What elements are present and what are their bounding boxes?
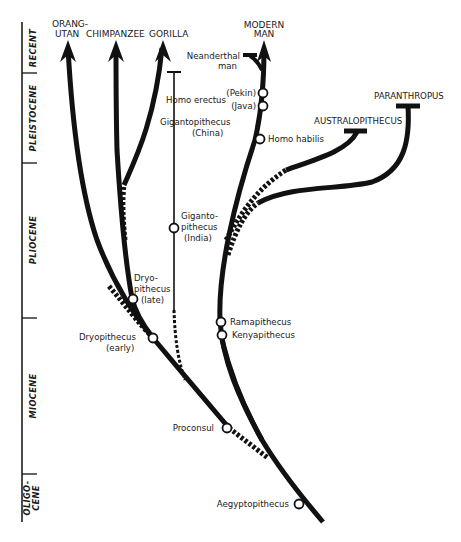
node-proconsul (223, 424, 232, 433)
node-ramapithecus (217, 318, 226, 327)
label-orangutan-1: ORANG- (52, 19, 88, 29)
label-dryo-late-1: Dryo- (134, 273, 158, 283)
node-giganto-india (170, 224, 179, 233)
label-neanderthal-2: man (218, 61, 237, 71)
label-dryo-late-3: (late) (141, 295, 164, 305)
label-dryo-early-1: Dryopithecus (79, 332, 137, 342)
label-giganto-china-1: Gigantopithecus (160, 117, 231, 127)
label-java: (Java) (231, 101, 256, 111)
label-australopithecus: AUSTRALOPITHECUS (314, 116, 402, 126)
evolution-diagram: RECENT PLEISTOCENE PLIOCENE MIOCENE OLIG… (0, 0, 461, 542)
label-chimpanzee: CHIMPANZEE (86, 29, 145, 39)
node-dryo-early (149, 334, 158, 343)
label-neanderthal-1: Neanderthal (187, 51, 240, 61)
label-ramapithecus: Ramapithecus (230, 317, 292, 327)
label-kenyapithecus: Kenyapithecus (232, 330, 295, 340)
label-paranthropus: PARANTHROPUS (374, 91, 444, 101)
time-scale: RECENT PLEISTOCENE PLIOCENE MIOCENE OLIG… (22, 22, 41, 522)
label-homo-erectus: Homo erectus (166, 95, 227, 105)
label-proconsul: Proconsul (173, 423, 214, 433)
branch-trunk-lower (222, 340, 323, 522)
node-homo-habilis (256, 135, 265, 144)
era-pliocene: PLIOCENE (28, 216, 38, 264)
label-giganto-china-2: (China) (192, 128, 223, 138)
node-java (259, 102, 268, 111)
label-giganto-india-2: pithecus (181, 222, 218, 232)
label-homo-habilis: Homo habilis (268, 134, 324, 144)
label-modern-man-2: MAN (254, 29, 275, 39)
node-kenyapithecus (218, 331, 227, 340)
label-dryo-early-2: (early) (106, 343, 134, 353)
branch-ape-main (153, 338, 229, 428)
label-giganto-india-1: Giganto- (181, 211, 218, 221)
era-recent: RECENT (28, 28, 38, 67)
label-gorilla: GORILLA (149, 29, 189, 39)
label-orangutan-2: UTAN (55, 29, 79, 39)
node-pekin (259, 89, 268, 98)
era-oligocene-2: CENE (31, 485, 41, 511)
node-dryo-late (129, 295, 138, 304)
label-giganto-india-3: (India) (184, 233, 212, 243)
era-miocene: MIOCENE (28, 373, 38, 418)
label-pekin: (Pekin) (226, 88, 256, 98)
branch-gorilla (124, 48, 162, 185)
node-aegyptopithecus (295, 500, 304, 509)
label-aegyptopithecus: Aegyptopithecus (217, 499, 290, 509)
era-pleistocene: PLEISTOCENE (28, 85, 38, 152)
labels: ORANG- UTAN CHIMPANZEE GORILLA MODERN MA… (52, 19, 444, 509)
label-dryo-late-2: pithecus (134, 284, 171, 294)
